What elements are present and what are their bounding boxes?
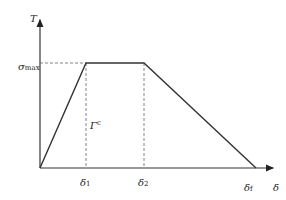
diagram-canvas [0, 0, 286, 200]
x-axis-label: δ [273, 183, 279, 193]
gamma-label: Γc [90, 120, 101, 131]
sigma-max-label: σmax [18, 62, 40, 72]
y-axis-label: T [30, 14, 37, 24]
delta2-label: δ2 [138, 178, 149, 188]
delta1-label: δ1 [80, 178, 91, 188]
traction-curve [40, 63, 256, 168]
deltaf-label: δf [244, 183, 253, 193]
